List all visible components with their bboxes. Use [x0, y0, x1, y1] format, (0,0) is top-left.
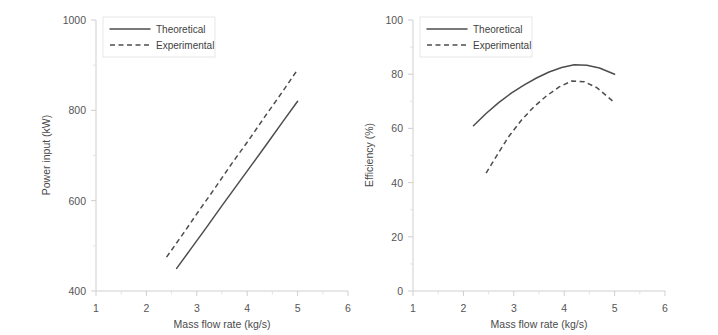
legend-label-theoretical: Theoretical: [473, 24, 522, 35]
y-tick-label-40: 40: [391, 177, 403, 189]
legend: Theoretical Experimental: [103, 17, 215, 57]
x-tick-label-5: 5: [612, 302, 618, 314]
legend-label-experimental: Experimental: [156, 40, 214, 51]
y-tick-label-80: 80: [391, 68, 403, 80]
x-tick-label-6: 6: [662, 302, 668, 314]
x-tick-label-1: 1: [410, 302, 416, 314]
x-tick-label-3: 3: [194, 302, 200, 314]
series-line-theoretical: [177, 101, 298, 268]
x-axis-title: Mass flow rate (kg/s): [491, 318, 588, 330]
x-tick-label-4: 4: [244, 302, 250, 314]
y-tick-label-60: 60: [391, 122, 403, 134]
series-line-theoretical: [473, 65, 614, 126]
legend-label-experimental: Experimental: [473, 40, 531, 51]
y-tick-label-400: 400: [68, 285, 86, 297]
series-line-experimental: [167, 70, 298, 257]
y-tick-label-0: 0: [397, 285, 403, 297]
x-tick-label-6: 6: [345, 302, 351, 314]
efficiency-chart-svg: 100 80 60 40 20 0 1 2 3 4 5 6 Mass flow …: [359, 0, 718, 335]
x-tick-label-4: 4: [561, 302, 567, 314]
y-tick-label-20: 20: [391, 231, 403, 243]
chart-panel-efficiency: 100 80 60 40 20 0 1 2 3 4 5 6 Mass flow …: [359, 0, 718, 335]
x-tick-label-5: 5: [295, 302, 301, 314]
x-tick-label-3: 3: [511, 302, 517, 314]
y-axis-title: Efficiency (%): [363, 123, 375, 187]
y-axis-title: Power input (kW): [40, 115, 52, 196]
x-tick-label-2: 2: [143, 302, 149, 314]
legend: Theoretical Experimental: [420, 17, 532, 57]
two-panel-chart-figure: 1000 800 600 400 1 2 3 4 5 6 Mass flow r…: [0, 0, 718, 335]
chart-panel-power-input: 1000 800 600 400 1 2 3 4 5 6 Mass flow r…: [0, 0, 359, 335]
y-tick-label-800: 800: [68, 104, 86, 116]
y-tick-label-600: 600: [68, 195, 86, 207]
series-line-experimental: [486, 81, 615, 173]
power-input-chart-svg: 1000 800 600 400 1 2 3 4 5 6 Mass flow r…: [0, 0, 359, 335]
x-tick-label-1: 1: [93, 302, 99, 314]
y-tick-label-1000: 1000: [63, 14, 87, 26]
x-tick-label-2: 2: [460, 302, 466, 314]
x-axis-title: Mass flow rate (kg/s): [174, 318, 271, 330]
legend-label-theoretical: Theoretical: [156, 24, 205, 35]
y-tick-label-100: 100: [385, 14, 403, 26]
